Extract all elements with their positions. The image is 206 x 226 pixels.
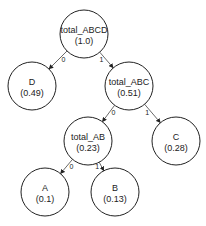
node-name: D [29, 77, 36, 87]
node-C: C(0.28) [152, 117, 200, 165]
node-value: (0.49) [20, 88, 44, 98]
edge-label: 1 [99, 56, 103, 63]
node-value: (0.13) [103, 194, 127, 204]
node-value: (0.1) [36, 194, 55, 204]
node-value: (1.0) [75, 36, 94, 46]
node-name: total_ABC [109, 77, 150, 87]
node-name: total_AB [71, 132, 105, 142]
node-value: (0.51) [117, 88, 141, 98]
node-total_ABC: total_ABC(0.51) [105, 62, 153, 110]
node-A: A(0.1) [21, 168, 69, 216]
node-value: (0.28) [164, 143, 188, 153]
node-name: total_ABCD [60, 25, 108, 35]
node-name: C [173, 132, 180, 142]
edge-label: 1 [145, 109, 149, 116]
node-B: B(0.13) [91, 168, 139, 216]
node-total_ABCD: total_ABCD(1.0) [60, 10, 108, 58]
node-name: A [42, 183, 48, 193]
node-D: D(0.49) [8, 62, 56, 110]
node-total_AB: total_AB(0.23) [64, 117, 112, 165]
node-value: (0.23) [76, 143, 100, 153]
edge-total_AB-B [99, 162, 104, 171]
tree-diagram: 010101 total_ABCD(1.0)D(0.49)total_ABC(0… [0, 0, 206, 226]
node-name: B [112, 183, 118, 193]
edge-label: 0 [69, 163, 73, 170]
edge-label: 0 [62, 56, 66, 63]
nodes-group: total_ABCD(1.0)D(0.49)total_ABC(0.51)tot… [8, 10, 200, 216]
edge-label: 0 [112, 109, 116, 116]
